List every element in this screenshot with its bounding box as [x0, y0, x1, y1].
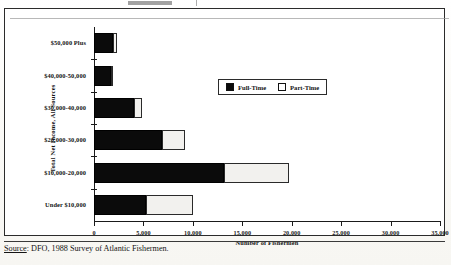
x-axis-tick-label: 15,000 — [233, 229, 251, 236]
x-axis-tick — [440, 221, 441, 226]
x-axis-tick — [391, 221, 392, 226]
y-axis-tick — [91, 189, 97, 190]
x-axis-tick — [94, 221, 95, 226]
x-axis-tick-label: 5,000 — [136, 229, 150, 236]
bar-segment-part-time — [224, 163, 288, 183]
y-axis-category-label: $10,000-20,000 — [44, 169, 86, 176]
legend-label-part-time: Part-Time — [290, 84, 319, 91]
bar-segment-full-time — [94, 98, 134, 118]
x-axis-tick-label: 20,000 — [283, 229, 301, 236]
filled-square-icon — [226, 83, 234, 91]
x-axis-tick — [242, 221, 243, 226]
empty-square-icon — [278, 83, 286, 91]
bar-segment-part-time — [162, 130, 185, 150]
scan-artifact-smudge — [128, 1, 172, 5]
bar-segment-full-time — [94, 163, 224, 183]
bar-segment-part-time — [146, 195, 192, 215]
plot-area: 05,00010,00015,00020,00025,00030,00035,0… — [94, 27, 440, 221]
x-axis-line — [94, 221, 440, 222]
chart-legend: Full-Time Part-Time — [218, 79, 327, 95]
bar-segment-full-time — [94, 195, 146, 215]
y-axis-tick — [91, 156, 97, 157]
y-axis-tick — [91, 92, 97, 93]
y-axis-category-label: $50,000 Plus — [51, 39, 86, 46]
bar-group — [94, 33, 440, 53]
source-caption: Source: DFO, 1988 Survey of Atlantic Fis… — [4, 244, 169, 253]
x-axis-tick — [341, 221, 342, 226]
bar-segment-full-time — [94, 130, 162, 150]
x-axis-tick-label: 0 — [92, 229, 95, 236]
y-axis-tick-labels: Under $10,000$10,000-20,000$20,000-30,00… — [5, 27, 90, 221]
y-axis-category-label: $20,000-30,000 — [44, 136, 86, 143]
bar-group — [94, 195, 440, 215]
figure-frame: Total Net Income, All Sources Under $10,… — [4, 8, 445, 236]
y-axis-category-label: Under $10,000 — [45, 201, 86, 208]
bar-segment-full-time — [94, 33, 113, 53]
y-axis-category-label: $30,000-40,000 — [44, 104, 86, 111]
x-axis-tick — [193, 221, 194, 226]
y-axis-category-label: $40,000-50,000 — [44, 72, 86, 79]
x-axis-tick-label: 30,000 — [382, 229, 400, 236]
y-axis-tick — [91, 59, 97, 60]
legend-item-part-time: Part-Time — [278, 83, 319, 91]
scan-artifact-tick — [196, 0, 197, 6]
x-axis-tick — [292, 221, 293, 226]
bar-segment-part-time — [134, 98, 143, 118]
frame-inner-rule — [10, 18, 449, 19]
bar-group — [94, 163, 440, 183]
bar-group — [94, 98, 440, 118]
source-prefix-label: Source — [4, 244, 27, 253]
legend-item-full-time: Full-Time — [226, 83, 266, 91]
bar-group — [94, 130, 440, 150]
x-axis-tick-label: 35,000 — [431, 229, 449, 236]
bar-segment-part-time — [113, 33, 117, 53]
x-axis-tick-label: 25,000 — [332, 229, 350, 236]
source-text: : DFO, 1988 Survey of Atlantic Fishermen… — [27, 244, 169, 253]
bar-segment-part-time — [111, 66, 113, 86]
legend-label-full-time: Full-Time — [238, 84, 266, 91]
bar-segment-full-time — [94, 66, 111, 86]
x-axis-tick — [143, 221, 144, 226]
source-divider — [4, 241, 445, 242]
x-axis-tick-label: 10,000 — [184, 229, 202, 236]
y-axis-tick — [91, 124, 97, 125]
